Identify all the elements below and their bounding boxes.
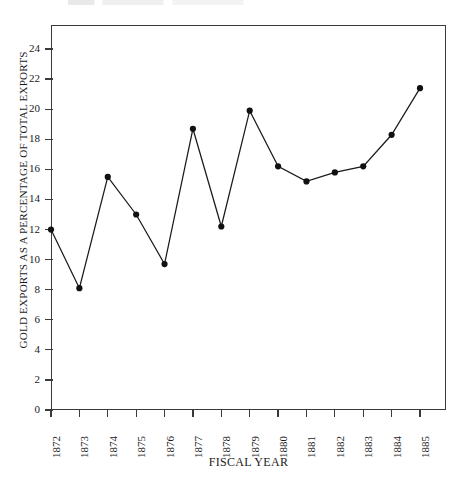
data-point-1881 (303, 178, 309, 184)
chart-figure: GOLD EXPORTS AS A PERCENTAGE OF TOTAL EX… (0, 0, 476, 482)
data-point-1873 (76, 285, 82, 291)
data-point-1874 (105, 174, 111, 180)
data-point-1872 (48, 226, 54, 232)
series-polyline (51, 88, 420, 288)
data-series-line (0, 0, 476, 482)
data-point-1882 (332, 169, 338, 175)
x-axis-title: FISCAL YEAR (51, 455, 446, 470)
data-point-1878 (218, 223, 224, 229)
data-point-1876 (161, 261, 167, 267)
data-point-1885 (417, 85, 423, 91)
data-point-1883 (360, 163, 366, 169)
data-point-1875 (133, 211, 139, 217)
data-point-1879 (247, 108, 253, 114)
data-point-1884 (389, 132, 395, 138)
data-point-1880 (275, 163, 281, 169)
data-point-1877 (190, 126, 196, 132)
